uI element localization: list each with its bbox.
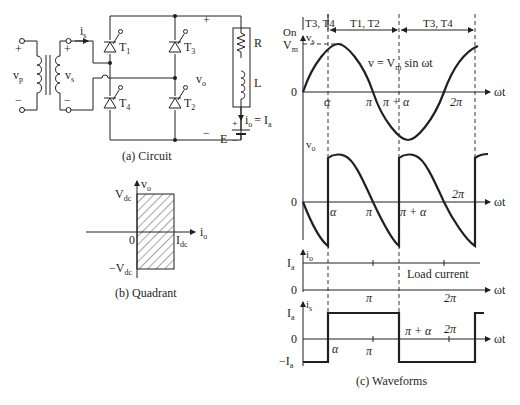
svg-text:T3, T4: T3, T4 [305,17,335,29]
svg-text:v = Vm sin ωt: v = Vm sin ωt [368,56,433,72]
svg-text:T1: T1 [119,40,130,56]
svg-text:Vm: Vm [283,38,299,54]
circuit-caption: (a) Circuit [122,149,172,163]
svg-text:0: 0 [291,85,297,99]
svg-text:Ia: Ia [287,306,295,322]
inductor-l [241,71,245,105]
svg-text:2π: 2π [444,291,457,305]
svg-text:α: α [330,205,337,219]
conduction-intervals: T3, T4 T1, T2 T3, T4 On [283,14,473,38]
svg-text:0: 0 [129,233,135,247]
svg-text:−Ia: −Ia [279,354,294,370]
svg-text:α: α [324,95,331,109]
svg-text:π + α: π + α [405,324,432,338]
svg-text:ωt: ωt [494,85,506,99]
svg-text:On: On [283,26,297,38]
svg-text:−Vdc: −Vdc [109,261,132,277]
svg-text:π: π [366,344,373,358]
secondary-coil [56,56,61,93]
svg-text:π + α: π + α [400,205,427,219]
is-plot: is Ia 0 −Ia α π π + α 2π ωt [279,298,506,370]
svg-text:T3, T4: T3, T4 [423,17,453,29]
circuit: + − vp + − vs is T1 T3 [13,13,272,163]
svg-text:0: 0 [291,195,297,209]
svg-text:+: + [15,42,22,56]
vs-label: vs [65,68,74,84]
svg-text:Vdc: Vdc [115,187,132,203]
svg-text:io: io [200,225,207,241]
svg-text:+: + [64,42,71,56]
svg-text:−: − [203,126,210,140]
svg-text:T1, T2: T1, T2 [350,17,380,29]
vp-label: vp [13,68,23,84]
waveforms-caption: (c) Waveforms [356,374,427,388]
primary-terminal-bottom [20,108,25,113]
svg-text:Load current: Load current [407,267,469,281]
svg-text:is: is [306,298,312,313]
svg-text:Idc: Idc [176,233,188,249]
svg-text:ωt: ωt [494,195,506,209]
svg-text:Ia: Ia [287,256,295,272]
svg-text:−: − [15,93,22,107]
thyristor-t3: T3 [169,30,195,57]
is-square-wave [303,313,484,362]
waveforms: T3, T4 T1, T2 T3, T4 On vs Vm 0 v = Vm s… [279,14,506,388]
svg-text:2π: 2π [450,95,463,109]
svg-text:π: π [366,205,373,219]
svg-text:+: + [232,118,238,129]
svg-text:π: π [366,291,373,305]
io-plot: io Ia 0 Load current π 2π ωt [287,248,506,305]
svg-text:vo: vo [306,138,316,153]
svg-text:vo: vo [141,177,151,193]
vs-plot: vs Vm 0 v = Vm sin ωt α π π + α 2π ωt [283,31,506,240]
svg-text:E: E [220,132,227,146]
vo-label: vo [196,72,206,88]
secondary-terminal-bottom [66,108,71,113]
quadrant-plot: vo io Vdc −Vdc Idc 0 (b) Quadrant [86,177,207,300]
svg-text:ωt: ωt [494,283,506,297]
svg-text:α: α [332,342,339,356]
svg-text:−: − [64,93,71,107]
primary-coil [37,56,42,93]
r-label: R [254,36,262,50]
thyristor-t1: T1 [104,30,130,57]
converter-diagram: + − vp + − vs is T1 T3 [0,0,520,405]
is-label: is [80,24,86,40]
svg-text:T4: T4 [119,96,130,112]
svg-text:π + α: π + α [383,95,410,109]
svg-text:io: io [306,248,313,263]
l-label: L [254,76,261,90]
thyristor-t4: T4 [104,86,130,113]
svg-text:2π: 2π [444,322,457,336]
svg-text:T2: T2 [184,96,195,112]
svg-text:T3: T3 [184,40,195,56]
svg-text:ωt: ωt [494,332,506,346]
vo-plot: vo 0 α π π + α 2π ωt [291,138,506,246]
svg-text:0: 0 [291,283,297,297]
svg-text:0: 0 [291,332,297,346]
svg-text:π: π [366,95,373,109]
io-label: io= Ia [245,113,272,129]
quadrant-caption: (b) Quadrant [115,286,177,300]
svg-text:2π: 2π [452,187,465,201]
svg-text:+: + [203,13,210,27]
resistor-r [237,30,245,58]
thyristor-t2: T2 [169,86,195,113]
svg-text:−: − [232,135,238,146]
